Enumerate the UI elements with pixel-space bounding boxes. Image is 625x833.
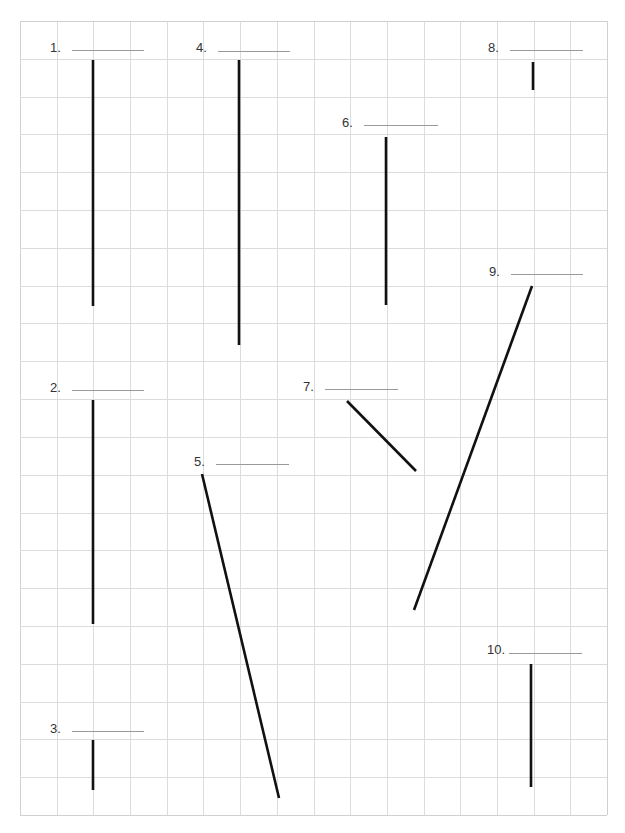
- line-segments-layer: [0, 0, 625, 833]
- item-number-4: 4.: [196, 41, 207, 55]
- answer-blank-1[interactable]: [72, 50, 144, 51]
- answer-blank-2[interactable]: [72, 390, 144, 391]
- item-number-5: 5.: [194, 455, 205, 469]
- item-number-9: 9.: [489, 265, 500, 279]
- measurement-worksheet: 1.2.3.4.5.6.7.8.9.10.: [0, 0, 625, 833]
- item-number-3: 3.: [50, 722, 61, 736]
- answer-blank-6[interactable]: [364, 125, 438, 126]
- answer-blank-8[interactable]: [510, 50, 583, 51]
- answer-blank-4[interactable]: [218, 51, 290, 52]
- line-segment-5: [202, 474, 279, 798]
- answer-blank-3[interactable]: [72, 731, 144, 732]
- answer-blank-10[interactable]: [509, 653, 582, 654]
- item-number-2: 2.: [50, 381, 61, 395]
- item-number-1: 1.: [50, 41, 61, 55]
- line-segment-7: [347, 401, 416, 471]
- answer-blank-9[interactable]: [511, 274, 583, 275]
- answer-blank-7[interactable]: [325, 389, 398, 390]
- answer-blank-5[interactable]: [216, 464, 289, 465]
- item-number-6: 6.: [342, 116, 353, 130]
- item-number-10: 10.: [487, 643, 505, 657]
- item-number-8: 8.: [488, 41, 499, 55]
- item-number-7: 7.: [303, 380, 314, 394]
- line-segment-9: [414, 286, 532, 610]
